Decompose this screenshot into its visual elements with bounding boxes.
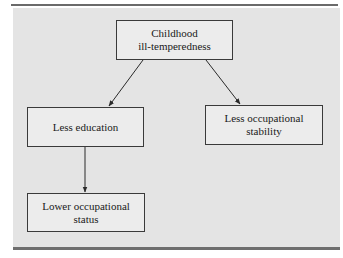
node-label-line: Less education: [53, 121, 119, 134]
node-less-occupational-stability: Less occupational stability: [205, 105, 323, 145]
bottom-rule: [13, 247, 340, 250]
node-label-line: Childhood: [138, 27, 211, 40]
node-lower-occupational-status: Lower occupational status: [27, 193, 145, 232]
node-label-line: ill-temperedness: [138, 40, 211, 53]
node-label-line: Less occupational: [224, 112, 303, 125]
node-childhood-ill-temperedness: Childhood ill-temperedness: [116, 20, 233, 60]
node-label-line: status: [42, 213, 130, 226]
node-less-education: Less education: [27, 107, 144, 147]
top-rule: [11, 4, 338, 6]
node-label-line: stability: [224, 125, 303, 138]
node-label-line: Lower occupational: [42, 200, 130, 213]
